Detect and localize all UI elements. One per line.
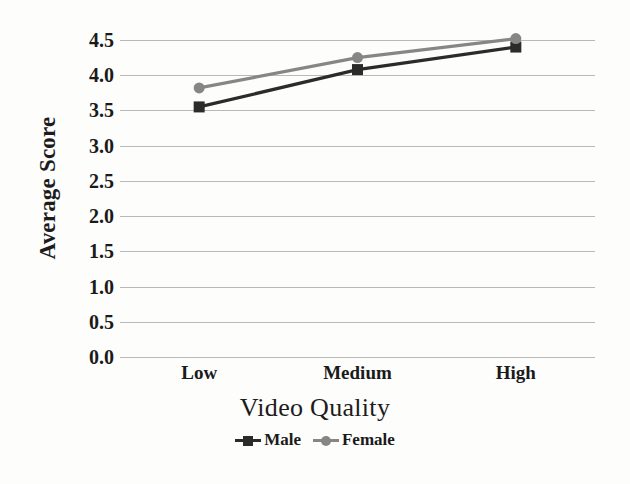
x-tick-label: High	[446, 362, 586, 384]
y-tick-label: 2.5	[58, 171, 114, 191]
plot-area	[120, 40, 595, 357]
y-tick-label: 2.0	[58, 206, 114, 226]
x-tick-label: Medium	[288, 362, 428, 384]
data-point-female	[194, 82, 205, 93]
x-axis-tick-labels: LowMediumHigh	[120, 362, 595, 392]
y-tick-label: 0.0	[58, 347, 114, 367]
y-tick-label: 4.0	[58, 65, 114, 85]
legend-square-marker-icon	[235, 433, 261, 447]
data-point-female	[510, 33, 521, 44]
x-axis-title: Video Quality	[0, 393, 630, 423]
data-point-female	[352, 52, 363, 63]
legend-circle-marker-icon	[313, 433, 339, 447]
series-line-female	[199, 39, 516, 88]
y-tick-label: 1.0	[58, 277, 114, 297]
x-tick-label: Low	[129, 362, 269, 384]
gridline	[120, 357, 595, 358]
chart-legend: MaleFemale	[0, 431, 630, 448]
legend-label: Female	[342, 431, 395, 448]
legend-label: Male	[264, 431, 301, 448]
y-tick-label: 0.5	[58, 312, 114, 332]
plot-series-svg	[120, 40, 595, 357]
data-point-male	[352, 64, 363, 75]
data-point-male	[194, 101, 205, 112]
legend-entry-female[interactable]: Female	[313, 431, 395, 448]
y-tick-label: 3.0	[58, 136, 114, 156]
y-tick-label: 4.5	[58, 30, 114, 50]
y-tick-label: 3.5	[58, 100, 114, 120]
legend-entry-male[interactable]: Male	[235, 431, 301, 448]
line-chart-figure: Average Score 0.00.51.01.52.02.53.03.54.…	[0, 0, 630, 484]
y-tick-label: 1.5	[58, 241, 114, 261]
